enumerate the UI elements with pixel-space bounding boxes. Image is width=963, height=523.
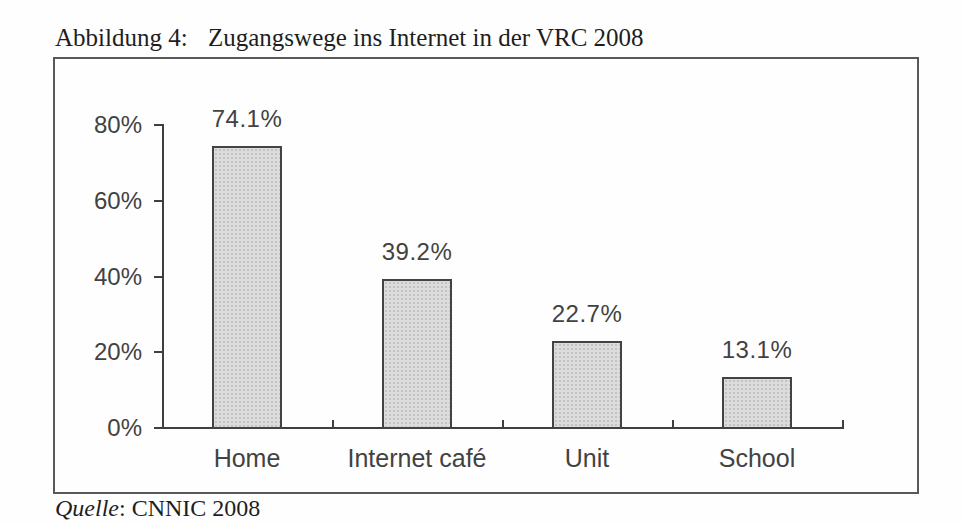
- document-page: Abbildung 4:Zugangswege ins Internet in …: [0, 0, 963, 523]
- y-tick-label: 20%: [72, 339, 142, 365]
- y-axis: [162, 124, 164, 429]
- x-tick-label: Home: [157, 445, 337, 471]
- y-tick-label: 0%: [72, 415, 142, 441]
- value-label: 13.1%: [697, 337, 817, 363]
- bar: [212, 146, 282, 429]
- x-tick-label: Internet café: [327, 445, 507, 471]
- y-tick-label: 80%: [72, 112, 142, 138]
- x-tick: [842, 420, 844, 427]
- y-tick: [154, 427, 162, 429]
- chart-frame: 0%20%40%60%80%74.1%Home39.2%Internet caf…: [53, 57, 919, 494]
- bar: [552, 341, 622, 429]
- x-tick: [502, 420, 504, 427]
- y-tick: [154, 351, 162, 353]
- x-tick-label: Unit: [497, 445, 677, 471]
- figure-caption: Abbildung 4:Zugangswege ins Internet in …: [55, 24, 644, 52]
- bar: [722, 377, 792, 429]
- figure-title: Zugangswege ins Internet in der VRC 2008: [208, 24, 644, 51]
- source-text: : CNNIC 2008: [119, 495, 260, 521]
- value-label: 39.2%: [357, 239, 477, 265]
- y-tick: [154, 200, 162, 202]
- source-label: Quelle: [55, 495, 119, 521]
- source-note: Quelle: CNNIC 2008: [55, 495, 260, 521]
- y-tick: [154, 124, 162, 126]
- x-tick: [332, 420, 334, 427]
- y-tick: [154, 276, 162, 278]
- plot-area: 0%20%40%60%80%74.1%Home39.2%Internet caf…: [55, 59, 917, 492]
- figure-label: Abbildung 4:: [55, 24, 208, 52]
- value-label: 74.1%: [187, 106, 307, 132]
- x-tick: [672, 420, 674, 427]
- y-tick-label: 60%: [72, 188, 142, 214]
- x-tick-label: School: [667, 445, 847, 471]
- bar: [382, 279, 452, 429]
- y-tick-label: 40%: [72, 264, 142, 290]
- value-label: 22.7%: [527, 301, 647, 327]
